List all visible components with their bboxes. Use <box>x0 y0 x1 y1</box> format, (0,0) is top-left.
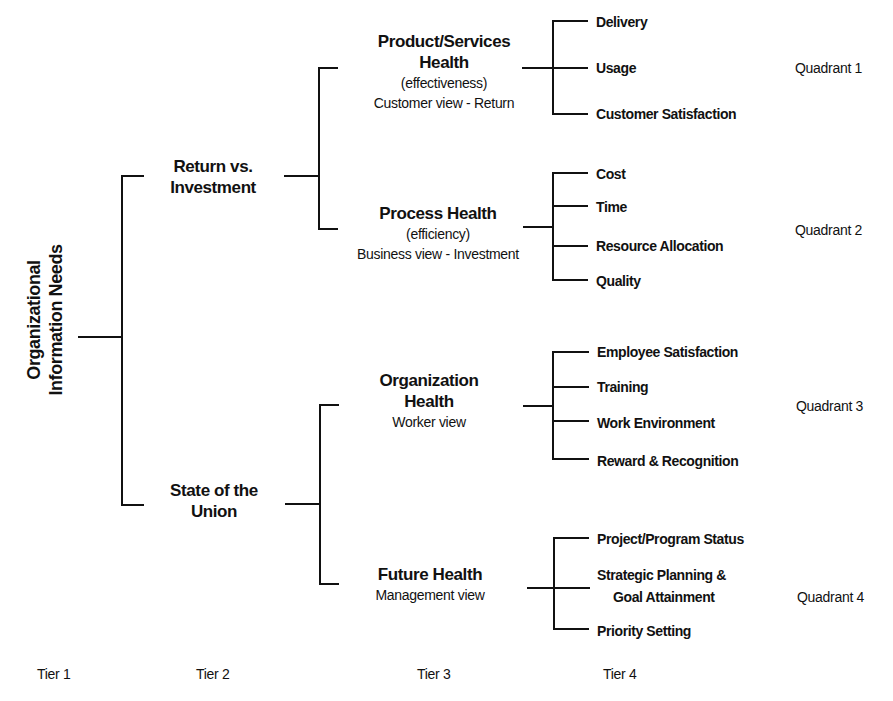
quadrant-3-label: Quadrant 3 <box>796 398 863 414</box>
node-title: Health <box>379 391 478 412</box>
node-future-health: Future Health Management view <box>375 564 484 605</box>
tier-2-label: Tier 2 <box>196 666 229 682</box>
node-state-of-the-union: State of the Union <box>170 480 258 522</box>
root-node-organizational-information-needs: Organizational Information Needs <box>23 244 67 395</box>
node-line: Investment <box>170 177 256 198</box>
node-title: Process Health <box>357 203 519 224</box>
leaf-work-environment: Work Environment <box>597 415 715 431</box>
node-subtitle: Worker view <box>379 412 478 432</box>
node-return-vs-investment: Return vs. Investment <box>170 156 256 198</box>
tier-3-label: Tier 3 <box>417 666 450 682</box>
leaf-customer-satisfaction: Customer Satisfaction <box>596 106 736 122</box>
tier-4-label: Tier 4 <box>603 666 636 682</box>
node-subtitle: Customer view - Return <box>374 93 514 113</box>
leaf-goal-attainment: Goal Attainment <box>613 589 715 605</box>
node-title: Organization <box>379 370 478 391</box>
leaf-training: Training <box>597 379 648 395</box>
node-product-services-health: Product/Services Health (effectiveness) … <box>374 31 514 113</box>
root-line-1: Organizational <box>23 244 45 395</box>
leaf-delivery: Delivery <box>596 14 647 30</box>
quadrant-2-label: Quadrant 2 <box>795 222 862 238</box>
leaf-project-program-status: Project/Program Status <box>597 531 744 547</box>
leaf-usage: Usage <box>596 60 636 76</box>
node-title: Health <box>374 52 514 73</box>
node-subtitle: Management view <box>375 585 484 605</box>
node-title: Product/Services <box>374 31 514 52</box>
quadrant-4-label: Quadrant 4 <box>797 589 864 605</box>
leaf-strategic-planning: Strategic Planning & <box>597 567 726 583</box>
leaf-reward-recognition: Reward & Recognition <box>597 453 738 469</box>
leaf-priority-setting: Priority Setting <box>597 623 691 639</box>
node-line: State of the <box>170 480 258 501</box>
quadrant-1-label: Quadrant 1 <box>795 60 862 76</box>
leaf-time: Time <box>596 199 627 215</box>
leaf-quality: Quality <box>596 273 641 289</box>
leaf-employee-satisfaction: Employee Satisfaction <box>597 344 738 360</box>
node-title: Future Health <box>375 564 484 585</box>
leaf-resource-allocation: Resource Allocation <box>596 238 723 254</box>
root-line-2: Information Needs <box>45 244 67 395</box>
leaf-cost: Cost <box>596 166 626 182</box>
node-subtitle: (efficiency) <box>357 224 519 244</box>
node-subtitle: (effectiveness) <box>374 73 514 93</box>
node-line: Return vs. <box>170 156 256 177</box>
tier-1-label: Tier 1 <box>37 666 70 682</box>
node-line: Union <box>170 501 258 522</box>
node-organization-health: Organization Health Worker view <box>379 370 478 432</box>
node-process-health: Process Health (efficiency) Business vie… <box>357 203 519 264</box>
node-subtitle: Business view - Investment <box>357 244 519 264</box>
